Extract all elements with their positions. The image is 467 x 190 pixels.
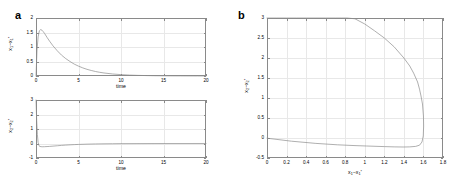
y-tick-label: 3 [250, 16, 264, 21]
plot-b-xaxis-title: x1−x1* [348, 170, 362, 177]
y-tick-label: 1.5 [250, 76, 264, 81]
x-tick-label: 20 [203, 161, 208, 166]
x-tick-label: 1.8 [440, 161, 446, 166]
two-panel-figure: a 05101520 00.511.52 time x1−x1* 0510152… [0, 0, 467, 190]
x-tick-mark [443, 18, 444, 21]
y-tick-label: -1 [19, 156, 33, 161]
x-tick-label: 1.2 [381, 161, 387, 166]
x-tick-label: 0.8 [342, 161, 348, 166]
x-tick-mark [206, 100, 207, 103]
y-tick-label: 2 [19, 112, 33, 117]
y-tick-label: 1 [19, 45, 33, 50]
plot-a-top-yaxis-title: x1−x1* [8, 37, 15, 51]
plot-a-bottom-xaxis-title: time [116, 166, 126, 171]
plot-a-bottom [36, 100, 206, 158]
x-tick-label: 1.6 [420, 161, 426, 166]
x-tick-label: 0 [266, 161, 269, 166]
y-tick-label: 3 [19, 98, 33, 103]
y-tick-label: 0.5 [19, 59, 33, 64]
plot-b-curve [267, 18, 443, 158]
y-tick-label: 0 [19, 141, 33, 146]
x-tick-label: 0.6 [322, 161, 328, 166]
y-tick-label: 0.5 [250, 116, 264, 121]
x-tick-mark [206, 74, 207, 77]
x-tick-mark [206, 156, 207, 159]
x-tick-label: 15 [161, 79, 166, 84]
y-tick-label: 1.5 [19, 30, 33, 35]
y-tick-label: -0.5 [250, 156, 264, 161]
x-tick-mark [206, 18, 207, 21]
x-tick-mark [443, 156, 444, 159]
y-tick-label: 1 [19, 127, 33, 132]
panel-label-b: b [238, 10, 245, 21]
y-tick-label: 2.5 [250, 36, 264, 41]
y-tick-label: 0 [250, 136, 264, 141]
y-tick-label: 1 [250, 96, 264, 101]
plot-a-bottom-curve [36, 100, 206, 158]
y-tick-label: 2 [19, 16, 33, 21]
x-tick-label: 0.2 [283, 161, 289, 166]
plot-b-phase-portrait [267, 18, 443, 158]
x-tick-label: 15 [161, 161, 166, 166]
plot-a-top-xaxis-title: time [116, 84, 126, 89]
x-tick-label: 0.4 [303, 161, 309, 166]
x-tick-label: 1 [363, 161, 366, 166]
plot-b-yaxis-title: x2−x2* [244, 79, 251, 93]
plot-a-bottom-yaxis-title: x2−x2* [8, 119, 15, 133]
x-tick-label: 20 [203, 79, 208, 84]
y-tick-label: 0 [19, 74, 33, 79]
plot-a-top-curve [36, 18, 206, 76]
x-tick-label: 1.4 [401, 161, 407, 166]
x-tick-label: 0 [35, 79, 38, 84]
plot-a-top [36, 18, 206, 76]
y-tick-label: 2 [250, 56, 264, 61]
x-tick-label: 0 [35, 161, 38, 166]
x-tick-label: 5 [77, 79, 80, 84]
x-tick-label: 5 [77, 161, 80, 166]
